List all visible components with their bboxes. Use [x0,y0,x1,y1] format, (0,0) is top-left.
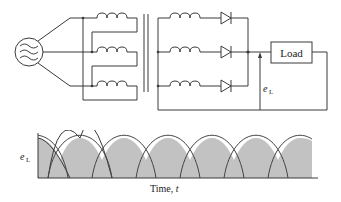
load-label: Load [280,47,303,59]
x-axis-label: Time, t [150,183,179,194]
output-voltage-arrow-icon [258,52,262,110]
output-voltage-label: e L [263,83,273,96]
secondary-wires [157,18,271,110]
svg-text:e: e [263,83,268,94]
transformer-core-icon [144,14,148,92]
svg-text:L: L [26,156,30,164]
svg-text:L: L [269,88,273,96]
svg-text:Time, t: Time, t [150,183,179,194]
secondary-coils-icon [170,13,200,86]
ac-source-icon [15,38,43,66]
rectifier-diagram: Load e L e L Time, t [0,0,341,202]
svg-text:Load: Load [280,47,303,59]
svg-text:e: e [20,151,25,162]
primary-coils-icon [97,13,127,86]
waveform-chart [0,126,332,178]
source-wires [38,17,137,100]
diode-icon [221,12,231,92]
y-axis-label: e L [20,151,30,164]
